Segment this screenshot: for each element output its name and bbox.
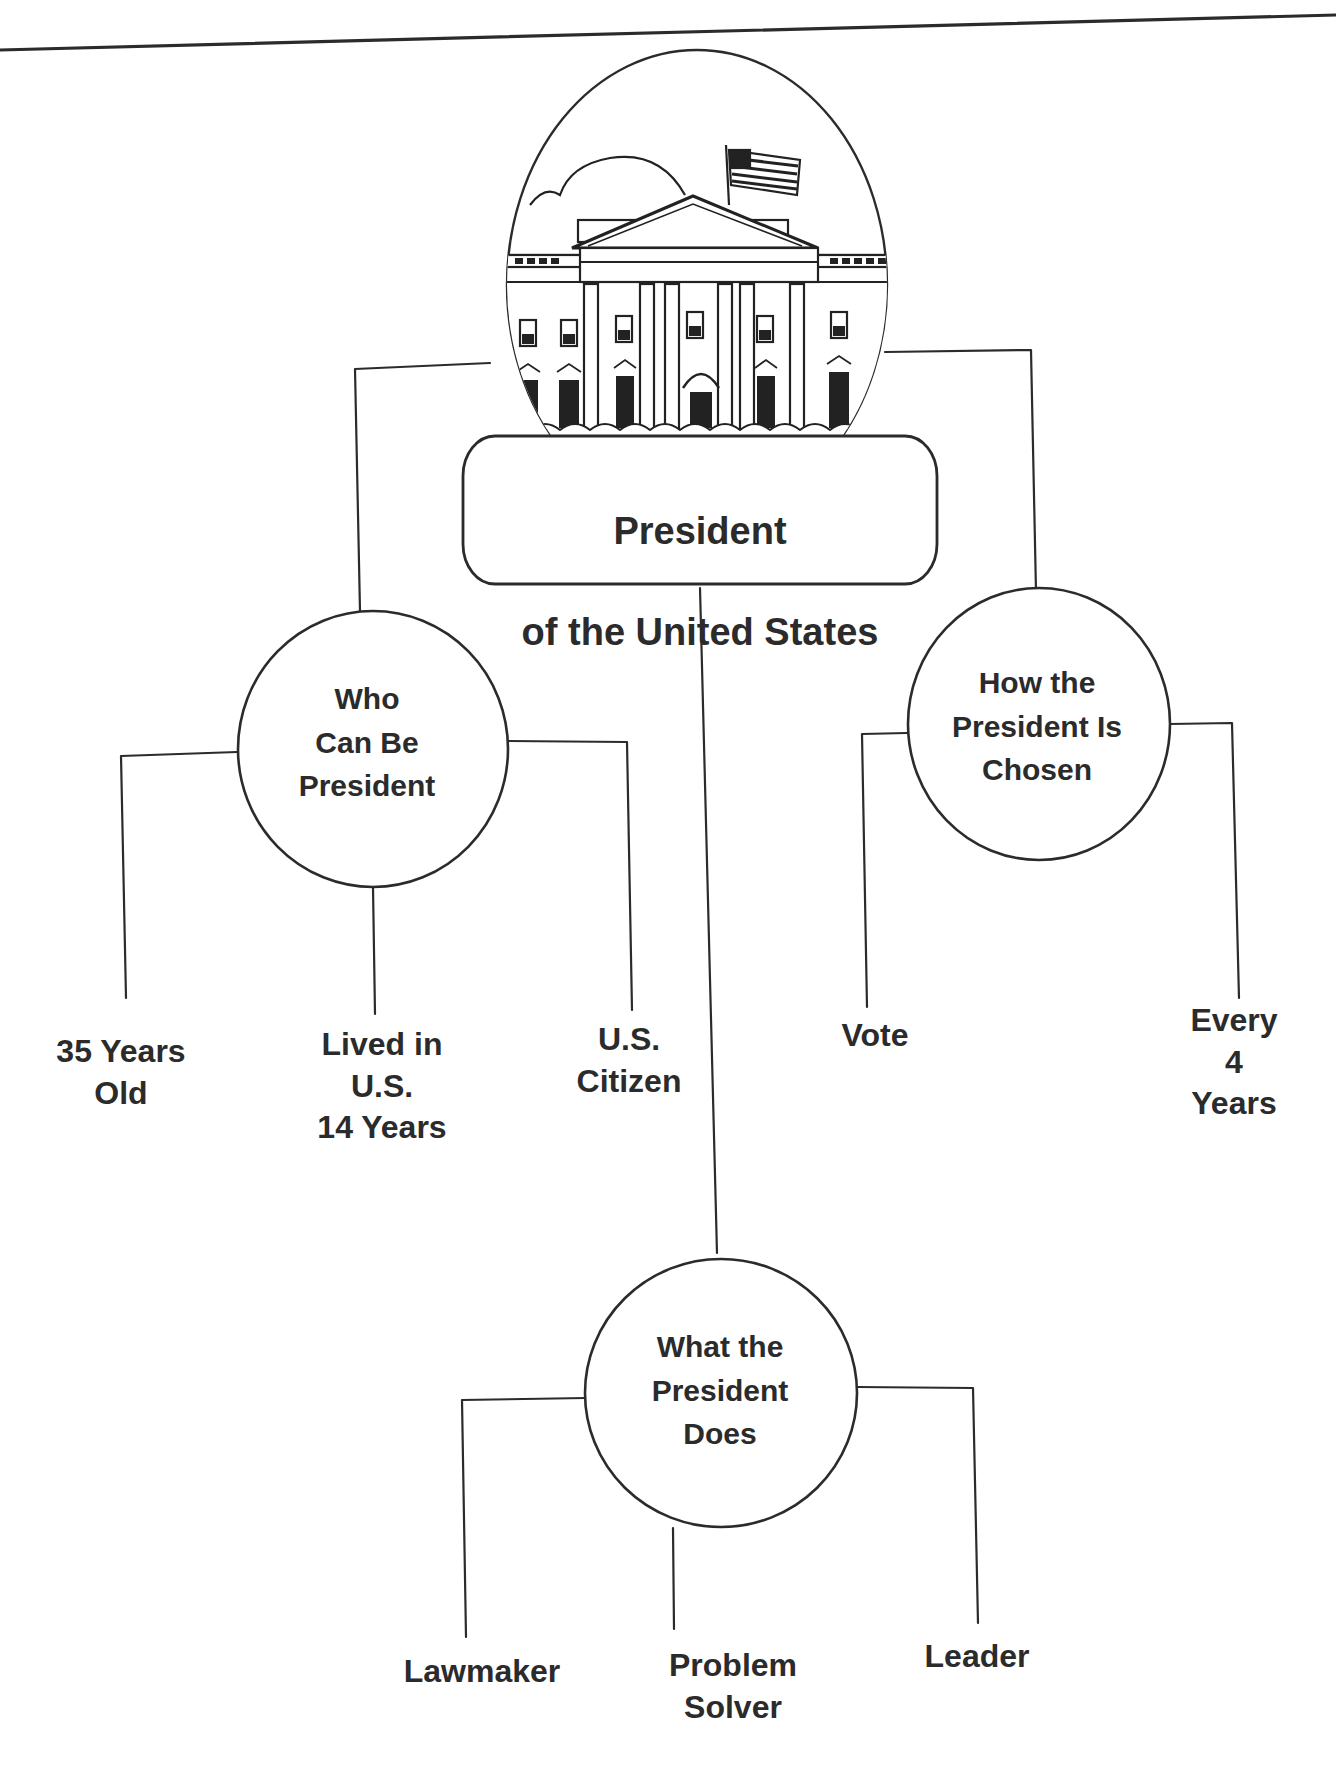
concept-map: President of the United States Who Can B…: [0, 0, 1336, 1771]
node-who-can-be-president: Who Can Be President: [299, 677, 436, 808]
leaf-vote: Vote: [842, 1015, 909, 1057]
leaf-lived-in-us-14-years: Lived in U.S. 14 Years: [317, 1024, 446, 1149]
node-what-president-does: What the President Does: [652, 1325, 789, 1456]
root-label: President of the United States: [522, 455, 879, 708]
root-label-line1: President: [522, 506, 879, 557]
root-label-line2: of the United States: [522, 607, 879, 658]
leaf-us-citizen: U.S. Citizen: [577, 1019, 682, 1102]
leaf-every-4-years: Every 4 Years: [1183, 1000, 1285, 1125]
leaf-lawmaker: Lawmaker: [404, 1651, 561, 1693]
leaf-problem-solver: Problem Solver: [669, 1645, 797, 1728]
node-how-president-chosen: How the President Is Chosen: [952, 661, 1122, 792]
connector-lines: [0, 0, 1336, 1771]
header-rule: [0, 15, 1336, 50]
leaf-leader: Leader: [925, 1636, 1030, 1678]
leaf-35-years-old: 35 Years Old: [56, 1031, 185, 1114]
